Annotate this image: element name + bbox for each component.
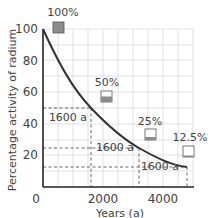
x-tick-4000: 4000 xyxy=(148,192,179,206)
label-50pct: 50% xyxy=(95,76,119,89)
half-life-label-3: 1600 a xyxy=(141,160,179,173)
y-tick-80: 80 xyxy=(23,54,38,68)
sample-25: 25% xyxy=(138,115,162,140)
radium-decay-chart: 100 80 60 40 20 0 2000 4000 Years (a) Pe… xyxy=(0,0,223,218)
y-axis-label: Percentage activity of radium xyxy=(6,29,19,192)
y-tick-20: 20 xyxy=(23,148,38,162)
x-tick-labels: 0 2000 4000 xyxy=(32,192,178,206)
half-life-label-2: 1600 a xyxy=(96,141,134,154)
label-100pct: 100% xyxy=(47,6,78,19)
half-life-label-1: 1600 a xyxy=(49,111,87,124)
sample-50: 50% xyxy=(95,76,119,102)
x-tick-0: 0 xyxy=(32,192,40,206)
y-tick-60: 60 xyxy=(23,85,38,99)
x-tick-2000: 2000 xyxy=(88,192,119,206)
y-tick-40: 40 xyxy=(23,117,38,131)
label-12-5pct: 12.5% xyxy=(173,131,208,144)
x-axis-label: Years (a) xyxy=(95,207,144,218)
label-25pct: 25% xyxy=(138,115,162,128)
